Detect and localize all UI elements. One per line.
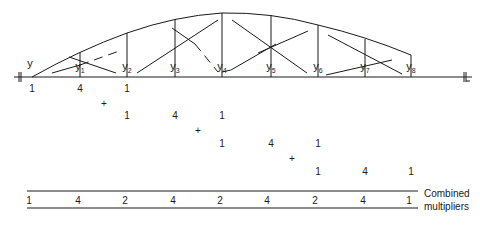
ordinate-label-y7: y7 [360,60,370,74]
combined-label-line1: Combined [424,188,470,199]
svg-text:4: 4 [75,195,81,206]
plus-sign: + [101,98,107,109]
svg-text:2: 2 [122,195,128,206]
combined-multipliers-row: 1 4 2 4 2 4 2 4 1 [26,195,412,206]
svg-text:4: 4 [264,195,270,206]
svg-text:4: 4 [77,83,83,94]
diagram-canvas: y y1 y2 y3 y4 y5 y6 y7 y8 1 4 1 + 1 4 1 … [0,0,480,227]
svg-text:1: 1 [124,110,130,121]
svg-text:2: 2 [312,195,318,206]
svg-text:4: 4 [170,195,176,206]
ordinate-label-y2: y2 [122,60,132,74]
plus-sign: + [195,125,201,136]
svg-text:4: 4 [268,138,274,149]
svg-text:1: 1 [29,83,35,94]
ordinate-label-y8: y8 [406,60,416,74]
simpson-group-2: 1 4 1 [124,110,225,121]
ordinate-label-y3: y3 [170,60,180,74]
svg-text:1: 1 [408,166,414,177]
truss-diagonals [52,20,402,75]
ordinate-label-y4: y4 [217,60,227,74]
plus-sign: + [289,153,295,164]
svg-text:1: 1 [26,195,32,206]
svg-text:4: 4 [362,166,368,177]
combined-label-line2: multipliers [424,201,469,212]
ordinate-label-y5: y5 [266,60,276,74]
y-axis-label: y [27,57,33,69]
svg-text:1: 1 [315,138,321,149]
svg-text:4: 4 [172,110,178,121]
svg-text:1: 1 [124,83,130,94]
svg-text:1: 1 [219,138,225,149]
simpson-group-3: 1 4 1 [219,138,321,149]
ordinate-label-y6: y6 [313,60,323,74]
svg-text:1: 1 [315,166,321,177]
simpson-group-4: 1 4 1 [315,166,414,177]
simpson-group-1: 1 4 1 [29,83,130,94]
svg-text:4: 4 [360,195,366,206]
truss-dashed-diagonals [80,44,231,72]
svg-text:1: 1 [219,110,225,121]
svg-text:2: 2 [217,195,223,206]
truss-simpson-diagram: y y1 y2 y3 y4 y5 y6 y7 y8 1 4 1 + 1 4 1 … [0,0,480,227]
svg-text:1: 1 [406,195,412,206]
